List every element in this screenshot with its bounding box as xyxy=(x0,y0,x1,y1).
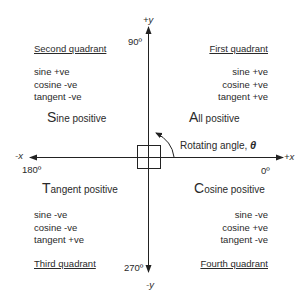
sign-line: cosine -ve xyxy=(34,79,82,92)
sign-line: sine -ve xyxy=(34,209,84,222)
sign-line: tangent +ve xyxy=(34,234,84,247)
fourth-quadrant-signs: sine -ve cosine +ve tangent -ve xyxy=(190,209,268,247)
sign-line: sine +ve xyxy=(34,66,82,79)
second-quadrant-rule: Sine positive xyxy=(47,111,106,125)
sign-line: cosine +ve xyxy=(190,222,268,235)
sign-line: sine -ve xyxy=(190,209,268,222)
third-quadrant-rule: Tangent positive xyxy=(42,182,118,196)
second-quadrant-title: Second quadrant xyxy=(34,43,106,55)
theta-symbol: θ xyxy=(250,139,256,151)
sign-line: cosine +ve xyxy=(190,79,268,92)
plus-y-label: +y xyxy=(143,14,153,26)
sign-line: sine +ve xyxy=(190,66,268,79)
rotating-angle-label: Rotating angle, θ xyxy=(180,139,256,152)
sign-line: tangent -ve xyxy=(34,91,82,104)
angle-90-label: 90º xyxy=(128,36,142,48)
first-quadrant-rule: All positive xyxy=(189,111,239,125)
plus-x-label: +x xyxy=(284,151,294,163)
third-quadrant-title: Third quadrant xyxy=(34,258,96,270)
second-quadrant-signs: sine +ve cosine -ve tangent -ve xyxy=(34,66,82,104)
first-quadrant-signs: sine +ve cosine +ve tangent +ve xyxy=(190,66,268,104)
sign-line: cosine -ve xyxy=(34,222,84,235)
angle-0-label: 0º xyxy=(261,165,270,177)
fourth-quadrant-rule: Cosine positive xyxy=(194,182,265,196)
sign-line: tangent -ve xyxy=(190,234,268,247)
angle-180-label: 180º xyxy=(22,164,41,176)
fourth-quadrant-title: Fourth quadrant xyxy=(180,258,268,270)
angle-270-label: 270º xyxy=(124,262,143,274)
sign-line: tangent +ve xyxy=(190,91,268,104)
minus-y-label: -y xyxy=(146,279,154,291)
minus-x-label: -x xyxy=(15,150,23,162)
first-quadrant-title: First quadrant xyxy=(190,43,268,55)
third-quadrant-signs: sine -ve cosine -ve tangent +ve xyxy=(34,209,84,247)
